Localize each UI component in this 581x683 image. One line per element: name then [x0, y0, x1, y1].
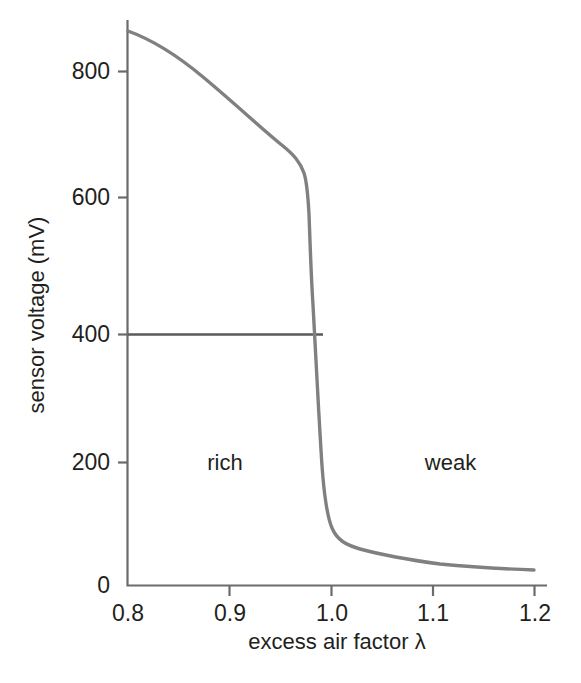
lambda-voltage-curve: [128, 31, 534, 570]
y-axis-title: sensor voltage (mV): [24, 195, 50, 435]
x-tick-label-0-9: 0.9: [190, 602, 270, 625]
annotation-rich: rich: [175, 450, 275, 476]
y-tick-label-600: 600: [0, 186, 110, 209]
y-tick-label-800: 800: [0, 60, 110, 83]
x-tick-label-1-1: 1.1: [393, 602, 473, 625]
x-tick-label-0-8: 0.8: [88, 602, 168, 625]
lambda-sensor-voltage-chart: 800 600 400 200 0 0.8 0.9 1.0 1.1 1.2 se…: [0, 0, 581, 683]
x-tick-label-1-0: 1.0: [292, 602, 372, 625]
y-tick-label-0: 0: [0, 574, 110, 597]
x-axis-title: excess air factor λ: [127, 629, 547, 655]
x-axis-ticks: [230, 585, 535, 596]
y-tick-label-200: 200: [0, 451, 110, 474]
x-tick-label-1-2: 1.2: [495, 602, 575, 625]
y-tick-label-400: 400: [0, 323, 110, 346]
axis-lines: [128, 20, 548, 586]
annotation-weak: weak: [398, 450, 503, 476]
